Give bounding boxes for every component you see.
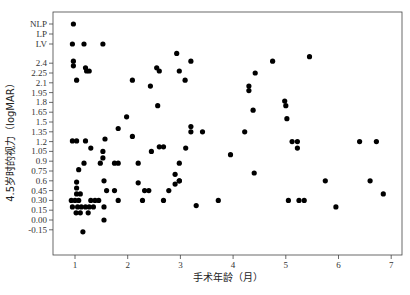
x-tick-label: 4 (231, 260, 236, 270)
data-point (116, 161, 121, 166)
data-point (116, 198, 121, 203)
data-point (81, 161, 86, 166)
x-tick-label: 5 (284, 260, 289, 270)
y-tick-label: 0.9 (36, 156, 48, 166)
data-point (116, 126, 121, 131)
data-point (374, 139, 379, 144)
y-axis: NLPLPLV2.42.252.11.951.81.651.51.351.21.… (28, 19, 53, 235)
y-tick-label: 2.1 (36, 78, 47, 88)
data-point (100, 41, 105, 46)
data-point (177, 178, 182, 183)
data-point (246, 88, 251, 93)
data-point (381, 191, 386, 196)
y-tick-label: 0.30 (31, 195, 47, 205)
data-point (157, 68, 162, 73)
y-tick-label: 0.00 (31, 215, 47, 225)
y-tick-label: 0.75 (31, 166, 47, 176)
data-point (81, 41, 86, 46)
data-point (188, 59, 193, 64)
x-tick-label: 1 (73, 260, 78, 270)
data-point (83, 138, 88, 143)
data-point (323, 178, 328, 183)
data-point (87, 68, 92, 73)
data-point (96, 198, 101, 203)
y-tick-label: 0.45 (31, 186, 47, 196)
data-point (200, 129, 205, 134)
data-point (307, 54, 312, 59)
data-point (295, 139, 300, 144)
y-tick-label: 0.15 (31, 205, 47, 215)
data-point (183, 146, 188, 151)
data-point (216, 198, 221, 203)
data-point (98, 161, 103, 166)
data-point (295, 146, 300, 151)
data-point (91, 204, 96, 209)
y-tick-label: NLP (30, 19, 47, 29)
data-point (333, 204, 338, 209)
data-point (290, 139, 295, 144)
y-tick-label: 2.4 (36, 58, 48, 68)
data-point (251, 108, 256, 113)
data-point (80, 229, 85, 234)
data-point (88, 146, 93, 151)
data-point (140, 198, 145, 203)
data-point (173, 172, 178, 177)
x-tick-label: 2 (125, 260, 130, 270)
data-point (177, 161, 182, 166)
y-tick-label: -0.15 (28, 225, 47, 235)
x-tick-label: 3 (178, 260, 183, 270)
data-point (194, 203, 199, 208)
data-point (183, 78, 188, 83)
data-point (101, 178, 106, 183)
data-point (177, 68, 182, 73)
data-point (284, 116, 289, 121)
data-point (368, 178, 373, 183)
data-point (74, 138, 79, 143)
data-point (78, 191, 83, 196)
data-point (282, 99, 287, 104)
x-axis-title: 手术年龄（月） (193, 271, 263, 283)
data-point (71, 21, 76, 26)
y-tick-label: LV (36, 39, 48, 49)
x-axis: 1234567 (73, 255, 394, 270)
data-point (146, 188, 151, 193)
data-point (124, 114, 129, 119)
data-point (270, 59, 275, 64)
x-tick-label: 7 (389, 260, 394, 270)
data-point (148, 84, 153, 89)
data-point (283, 103, 288, 108)
data-point (104, 188, 109, 193)
data-point (76, 198, 81, 203)
data-point (242, 129, 247, 134)
y-tick-label: 1.5 (36, 117, 48, 127)
data-point (86, 210, 91, 215)
data-point (357, 139, 362, 144)
data-point (130, 78, 135, 83)
y-tick-label: 1.8 (36, 97, 48, 107)
data-point (136, 180, 141, 185)
data-point (74, 78, 79, 83)
scatter-chart: NLPLPLV2.42.252.11.951.81.651.51.351.21.… (0, 0, 410, 295)
data-point (246, 84, 251, 89)
data-point (252, 170, 257, 175)
y-tick-label: 2.25 (31, 68, 47, 78)
y-axis-title: 4.5岁时的视力（logMAR） (4, 78, 16, 202)
data-point (101, 217, 106, 222)
data-point (78, 210, 83, 215)
y-tick-label: 1.05 (31, 146, 47, 156)
data-point (76, 167, 81, 172)
data-point (71, 59, 76, 64)
y-tick-label: 1.35 (31, 127, 47, 137)
data-point (253, 70, 258, 75)
data-point (100, 149, 105, 154)
y-tick-label: LP (36, 29, 47, 39)
data-point (161, 198, 166, 203)
data-point (188, 129, 193, 134)
data-point (100, 155, 105, 160)
data-point (112, 188, 117, 193)
data-point (228, 152, 233, 157)
x-tick-label: 6 (336, 260, 341, 270)
data-point (74, 185, 79, 190)
data-point (74, 180, 79, 185)
data-point (302, 198, 307, 203)
